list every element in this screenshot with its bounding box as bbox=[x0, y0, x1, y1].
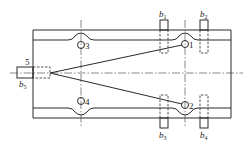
support-b4-hidden bbox=[200, 95, 208, 118]
label-b5: b5 bbox=[19, 79, 27, 90]
fixture-diagram: 3 4 1 2 5 b1 b2 b3 b4 b5 bbox=[0, 0, 251, 151]
label-pin-5: 5 bbox=[25, 57, 30, 67]
link-line-lower bbox=[50, 73, 182, 104]
support-b4-solid bbox=[200, 118, 208, 128]
label-hole-3: 3 bbox=[85, 41, 90, 51]
label-b2: b2 bbox=[200, 9, 208, 20]
link-line-upper bbox=[50, 45, 182, 73]
label-b4: b4 bbox=[200, 130, 208, 141]
label-hole-2: 2 bbox=[189, 101, 194, 111]
bottom-inner-profile bbox=[33, 108, 231, 115]
support-b3-hidden bbox=[160, 95, 168, 118]
pin-5-solid bbox=[17, 67, 33, 78]
label-b1: b1 bbox=[159, 9, 167, 20]
label-hole-4: 4 bbox=[85, 97, 90, 107]
support-b2-hidden bbox=[200, 30, 208, 53]
support-b2-solid bbox=[200, 20, 208, 30]
top-inner-profile bbox=[33, 33, 231, 40]
pin-5-hidden bbox=[33, 67, 50, 78]
label-hole-1: 1 bbox=[189, 40, 194, 50]
support-b3-solid bbox=[160, 118, 168, 128]
support-b1-solid bbox=[160, 20, 168, 30]
label-b3: b3 bbox=[159, 130, 167, 141]
